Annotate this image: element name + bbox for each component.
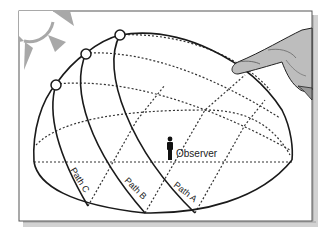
sun-position-b	[81, 49, 91, 59]
sun-position-a	[115, 30, 125, 40]
observer-label: Observer	[176, 148, 218, 159]
sun-position-c	[51, 80, 61, 90]
sun-path-diagram: Path C Path B Path A Observer	[0, 0, 329, 235]
